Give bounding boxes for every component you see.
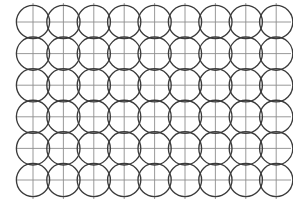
figure-root [0,0,293,202]
circle-lattice-plot [0,0,293,202]
